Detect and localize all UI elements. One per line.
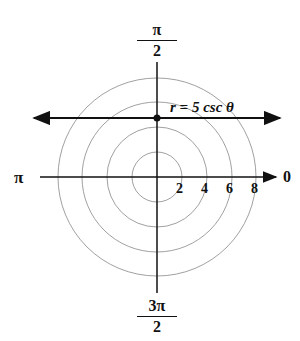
angle-label-bottom: 3π 2 xyxy=(137,298,177,335)
radial-tick-4: 4 xyxy=(201,181,208,197)
angle-label-left: π xyxy=(14,168,23,188)
angle-label-top: π 2 xyxy=(137,22,177,59)
curve-label: r = 5 csc θ xyxy=(170,99,234,116)
angle-label-right: 0 xyxy=(283,168,291,186)
radial-tick-6: 6 xyxy=(226,181,233,197)
radial-tick-2: 2 xyxy=(176,181,183,197)
highlight-point xyxy=(154,115,161,122)
radial-tick-8: 8 xyxy=(251,181,258,197)
